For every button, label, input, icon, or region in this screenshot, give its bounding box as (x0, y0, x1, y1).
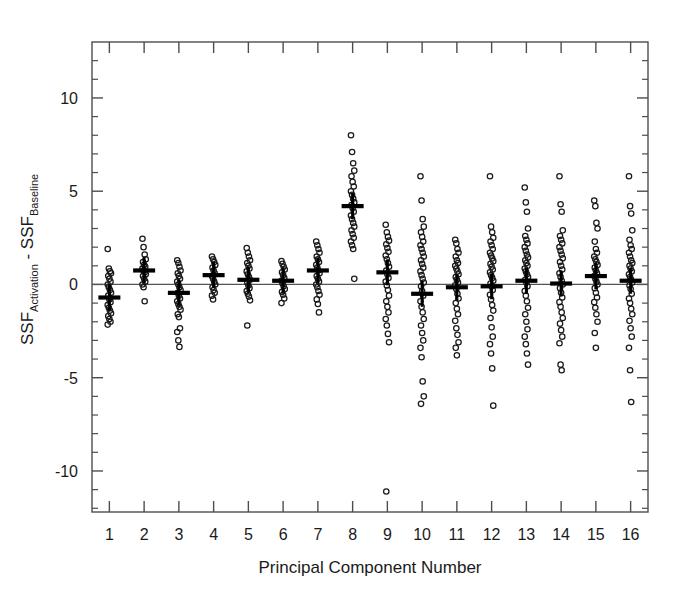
y-axis-title-operator: - (18, 249, 37, 264)
x-axis-title: Principal Component Number (259, 558, 482, 577)
x-tick-label: 13 (517, 526, 535, 543)
y-tick-label: 10 (60, 90, 78, 107)
y-tick-label: -5 (64, 370, 78, 387)
x-tick-label: 10 (413, 526, 431, 543)
y-tick-label: -10 (55, 463, 78, 480)
x-tick-label: 15 (587, 526, 605, 543)
x-tick-label: 14 (552, 526, 570, 543)
x-tick-label: 2 (140, 526, 149, 543)
x-tick-label: 5 (244, 526, 253, 543)
x-tick-label: 16 (622, 526, 640, 543)
x-tick-label: 8 (348, 526, 357, 543)
x-tick-label: 9 (383, 526, 392, 543)
scatter-plot-figure: 1050-5-10 12345678910111213141516 SSFAct… (0, 0, 677, 600)
x-tick-label: 4 (209, 526, 218, 543)
x-tick-label: 7 (313, 526, 322, 543)
y-axis-title-base2: SSF (18, 216, 37, 249)
y-axis-title-sub1: Activation (28, 264, 40, 312)
plot-canvas: 1050-5-10 12345678910111213141516 SSFAct… (0, 0, 677, 600)
x-tick-label: 11 (449, 526, 466, 543)
y-axis-title-sub2: Baseline (28, 174, 40, 216)
figure-background (0, 0, 677, 600)
y-tick-label: 5 (69, 183, 78, 200)
y-tick-label: 0 (69, 276, 78, 293)
x-tick-label: 3 (174, 526, 183, 543)
x-tick-label: 12 (483, 526, 501, 543)
y-axis-title-base1: SSF (18, 312, 37, 345)
x-tick-label: 1 (105, 526, 114, 543)
x-tick-label: 6 (279, 526, 288, 543)
